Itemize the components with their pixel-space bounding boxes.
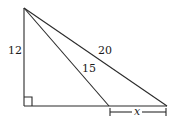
label-outer-hypotenuse: 20: [98, 44, 112, 57]
label-base-segment: x: [134, 105, 141, 118]
right-angle-marker: [24, 97, 32, 106]
label-vertical-leg: 12: [8, 44, 22, 57]
label-inner-hypotenuse: 15: [82, 62, 96, 75]
triangle-diagram: 12 15 20 x: [0, 0, 181, 120]
outer-hypotenuse: [24, 8, 167, 106]
